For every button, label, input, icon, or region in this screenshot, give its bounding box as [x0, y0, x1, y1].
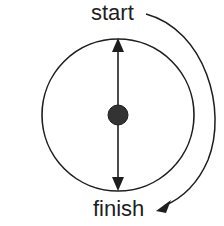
rotation-arrow-curve [146, 14, 215, 206]
diagram-graphic [0, 0, 224, 226]
finish-label: finish [93, 198, 144, 220]
rotation-diagram: ) start finish [0, 0, 224, 226]
down-arrow-icon [112, 177, 124, 191]
start-label: start [91, 2, 134, 24]
rotation-arrow-head-icon [156, 200, 171, 213]
up-arrow-icon [112, 38, 124, 52]
center-dot [108, 105, 128, 125]
